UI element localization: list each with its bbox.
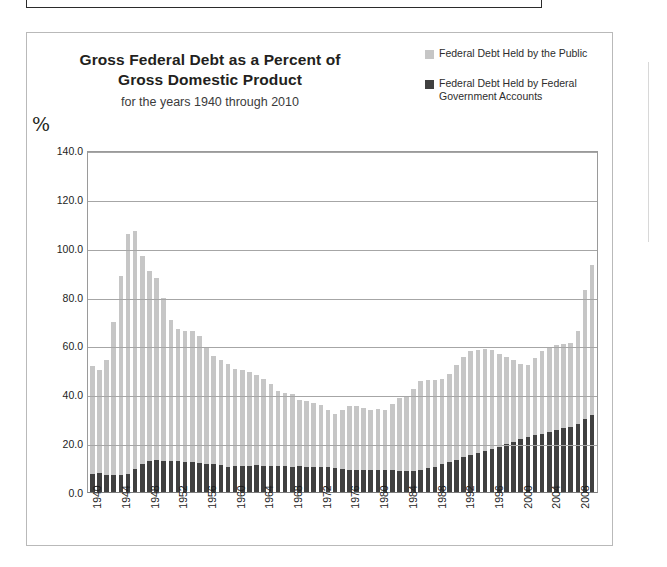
legend-swatch-public	[425, 50, 434, 59]
x-tick-slot	[512, 495, 517, 553]
bar-1982[interactable]	[390, 404, 395, 492]
bar-1993[interactable]	[468, 351, 473, 492]
bar-1971[interactable]	[311, 403, 316, 492]
bar-1990[interactable]	[447, 374, 452, 492]
x-tick-slot	[103, 495, 108, 553]
bar-1951[interactable]	[169, 320, 174, 492]
x-tick-slot	[526, 495, 531, 553]
bar-1992[interactable]	[461, 357, 466, 492]
bar-segment-public	[561, 344, 566, 428]
bar-1948[interactable]	[147, 271, 152, 492]
bar-segment-federal-accounts	[169, 461, 174, 492]
bar-1998[interactable]	[504, 357, 509, 492]
y-tick-label: 40.0	[31, 389, 83, 401]
bar-1974[interactable]	[333, 414, 338, 492]
bar-2006[interactable]	[561, 344, 566, 492]
bar-1957[interactable]	[211, 356, 216, 492]
bar-1945[interactable]	[126, 234, 131, 492]
x-tick-slot: 2004	[548, 495, 553, 553]
bar-1981[interactable]	[383, 410, 388, 492]
bar-1994[interactable]	[476, 350, 481, 492]
bar-1958[interactable]	[219, 360, 224, 492]
bar-1959[interactable]	[226, 364, 231, 492]
bar-1979[interactable]	[368, 410, 373, 492]
bar-2003[interactable]	[540, 351, 545, 492]
bar-1999[interactable]	[511, 360, 516, 492]
bar-1947[interactable]	[140, 256, 145, 492]
bar-1975[interactable]	[340, 410, 345, 492]
bar-1953[interactable]	[183, 331, 188, 492]
bar-segment-public	[547, 348, 552, 432]
bar-1967[interactable]	[283, 393, 288, 492]
bar-segment-public	[590, 265, 595, 415]
bar-1950[interactable]	[161, 298, 166, 492]
x-tick-slot: 1984	[405, 495, 410, 553]
bar-2000[interactable]	[518, 364, 523, 492]
bar-1970[interactable]	[304, 401, 309, 492]
chart-title-line-1: Gross Federal Debt as a Percent of	[45, 50, 375, 70]
bar-segment-federal-accounts	[397, 471, 402, 492]
bar-segment-federal-accounts	[140, 464, 145, 492]
bar-1980[interactable]	[376, 409, 381, 492]
bar-segment-federal-accounts	[197, 463, 202, 492]
x-tick-slot: 2008	[577, 495, 582, 553]
bar-1984[interactable]	[404, 396, 409, 492]
x-tick-slot	[333, 495, 338, 553]
bar-1949[interactable]	[154, 278, 159, 492]
bar-2002[interactable]	[533, 358, 538, 492]
bar-1978[interactable]	[361, 408, 366, 493]
bar-1972[interactable]	[319, 405, 324, 492]
bar-2001[interactable]	[526, 365, 531, 492]
bar-2004[interactable]	[547, 348, 552, 492]
bar-segment-public	[304, 401, 309, 466]
bar-segment-public	[126, 234, 131, 473]
bar-segment-public	[526, 365, 531, 437]
bar-1997[interactable]	[497, 354, 502, 493]
bar-1965[interactable]	[269, 384, 274, 492]
bar-segment-federal-accounts	[547, 432, 552, 492]
bar-1966[interactable]	[276, 391, 281, 492]
x-tick-slot: 1960	[232, 495, 237, 553]
bar-segment-public	[219, 360, 224, 466]
bar-1973[interactable]	[326, 410, 331, 492]
bar-1963[interactable]	[254, 375, 259, 492]
bar-1942[interactable]	[104, 360, 109, 492]
bar-2008[interactable]	[576, 331, 581, 492]
bar-2007[interactable]	[568, 343, 573, 492]
bar-1956[interactable]	[204, 348, 209, 492]
bar-1955[interactable]	[197, 336, 202, 492]
bar-segment-public	[568, 343, 573, 427]
bar-segment-public	[290, 394, 295, 467]
bar-segment-public	[483, 349, 488, 451]
bar-1996[interactable]	[490, 350, 495, 492]
bar-1991[interactable]	[454, 365, 459, 492]
bar-1946[interactable]	[133, 231, 138, 492]
bar-1995[interactable]	[483, 349, 488, 492]
bar-2009[interactable]	[583, 290, 588, 492]
bar-1941[interactable]	[97, 370, 102, 492]
bar-segment-public	[347, 406, 352, 470]
bar-2005[interactable]	[554, 345, 559, 492]
bar-1952[interactable]	[176, 329, 181, 492]
bar-1968[interactable]	[290, 394, 295, 492]
x-tick-slot	[397, 495, 402, 553]
bar-segment-federal-accounts	[554, 430, 559, 492]
bar-segment-public	[390, 404, 395, 470]
bar-1940[interactable]	[90, 366, 95, 492]
bar-1960[interactable]	[233, 369, 238, 492]
bar-1944[interactable]	[119, 276, 124, 492]
bar-1977[interactable]	[354, 406, 359, 492]
bar-segment-public	[583, 290, 588, 419]
x-tick-slot	[426, 495, 431, 553]
bar-1961[interactable]	[240, 370, 245, 492]
bar-segment-public	[368, 410, 373, 469]
bar-1954[interactable]	[190, 331, 195, 492]
gridline-120.0	[88, 201, 597, 202]
bar-1976[interactable]	[347, 406, 352, 492]
bar-1985[interactable]	[411, 389, 416, 492]
bar-1962[interactable]	[247, 372, 252, 492]
legend-item-federal-accounts[interactable]: Federal Debt Held by Federal Government …	[425, 77, 605, 103]
legend-item-public[interactable]: Federal Debt Held by the Public	[425, 47, 605, 60]
bar-1986[interactable]	[418, 381, 423, 492]
bar-segment-public	[97, 370, 102, 473]
